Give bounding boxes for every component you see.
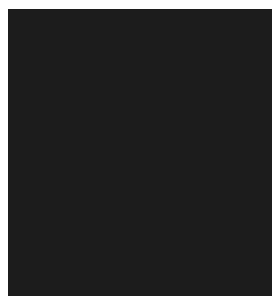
image-frame bbox=[8, 9, 272, 296]
